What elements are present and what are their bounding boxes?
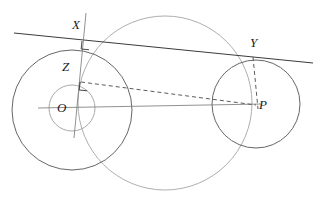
geometry-canvas <box>0 0 322 199</box>
point-label-Y: Y <box>250 36 257 49</box>
point-label-O: O <box>57 101 66 114</box>
segment-YP-dashed <box>253 57 258 109</box>
line-OP <box>38 104 262 108</box>
point-label-X: X <box>72 18 80 31</box>
point-label-P: P <box>259 98 267 111</box>
large-circle-O <box>12 50 132 170</box>
tangent-line-XY <box>14 33 313 63</box>
geometry-figure: X Y Z O P <box>0 0 322 199</box>
segment-ZP-dashed <box>81 82 256 105</box>
point-label-Z: Z <box>62 60 69 73</box>
